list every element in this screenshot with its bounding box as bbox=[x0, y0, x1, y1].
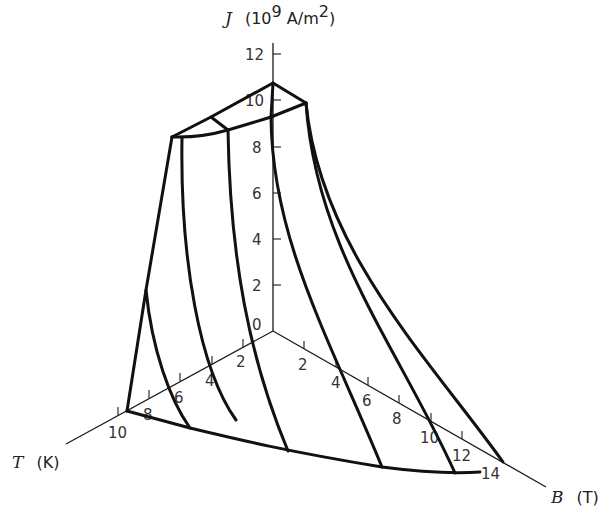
axis-labels: J (109 A/m2) T (K) B (T) bbox=[12, 2, 599, 507]
t-tick-2: 2 bbox=[236, 353, 246, 371]
j-tick-12: 12 bbox=[245, 46, 264, 64]
top-face-cross bbox=[211, 117, 228, 130]
t-tick-10: 10 bbox=[108, 424, 127, 442]
j-tick-8: 8 bbox=[252, 139, 262, 157]
top-face-front-edge bbox=[172, 103, 306, 137]
t-axis-label: T (K) bbox=[12, 452, 59, 472]
b-tick-14: 14 bbox=[481, 465, 500, 483]
j-tick-6: 6 bbox=[252, 185, 262, 203]
j-tick-4: 4 bbox=[252, 231, 262, 249]
b-tick-2: 2 bbox=[298, 356, 308, 374]
j-tick-2: 2 bbox=[252, 277, 262, 295]
b-axis bbox=[273, 331, 546, 487]
curve-4 bbox=[306, 103, 455, 473]
b-tick-4: 4 bbox=[331, 374, 341, 392]
j-tick-0: 0 bbox=[252, 316, 262, 334]
b-tick-8: 8 bbox=[392, 410, 402, 428]
b-tick-6: 6 bbox=[362, 392, 372, 410]
j-axis-label: J (109 A/m2) bbox=[222, 2, 335, 28]
top-face-ridge bbox=[271, 83, 273, 117]
critical-surface-diagram: 0 2 4 6 8 10 12 2 4 6 8 10 2 4 6 8 10 12… bbox=[0, 0, 609, 517]
curve-low-t bbox=[146, 290, 190, 428]
b0-curve bbox=[127, 137, 172, 411]
b-axis-label: B (T) bbox=[550, 487, 599, 507]
critical-surface bbox=[127, 83, 503, 473]
t-axis-ticks: 2 4 6 8 10 bbox=[108, 339, 246, 442]
b-tick-12: 12 bbox=[452, 447, 471, 465]
curve-right bbox=[306, 103, 503, 462]
curve-3 bbox=[271, 117, 382, 467]
